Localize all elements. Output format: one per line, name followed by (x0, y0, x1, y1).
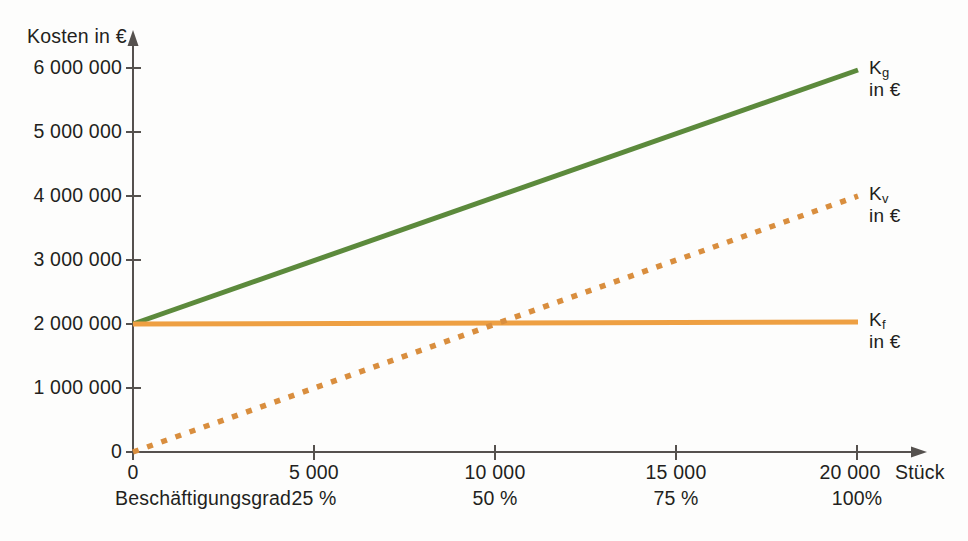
series-label-kf-unit: in € (869, 332, 900, 353)
series-label-kg-unit: in € (869, 80, 900, 101)
series-label-kv: Kv in € (869, 184, 900, 226)
x-secondary-label-100: 100% (807, 488, 907, 509)
y-axis-arrow-icon (128, 30, 139, 46)
series-label-kf-main: K (869, 309, 882, 330)
series-label-kf: Kf in € (869, 310, 900, 352)
y-tick-label-5000000: 5 000 000 (0, 121, 122, 142)
x-tick-label-5000: 5 000 (264, 462, 364, 483)
chart-canvas (0, 0, 968, 541)
series-label-kg-main: K (869, 57, 882, 78)
series-label-kg-subscript: g (882, 65, 889, 80)
series-label-kv-unit: in € (869, 206, 900, 227)
y-tick-label-1000000: 1 000 000 (0, 377, 122, 398)
x-axis-arrow-icon (911, 447, 927, 458)
series-label-kv-subscript: v (882, 191, 889, 206)
x-axis-unit-label: Stück (895, 462, 945, 483)
y-tick-label-4000000: 4 000 000 (0, 185, 122, 206)
x-secondary-label-25: 25 % (264, 488, 364, 509)
cost-function-chart: Kosten in € 6 000 000 5 000 000 4 000 00… (0, 0, 968, 541)
y-tick-label-0: 0 (0, 441, 122, 462)
x-secondary-label-50: 50 % (445, 488, 545, 509)
y-tick-label-2000000: 2 000 000 (0, 313, 122, 334)
y-axis-title: Kosten in € (27, 26, 127, 47)
x-tick-label-0: 0 (83, 462, 183, 483)
series-label-kv-main: K (869, 183, 882, 204)
x-tick-label-20000: 20 000 (800, 462, 900, 483)
y-tick-label-6000000: 6 000 000 (0, 57, 122, 78)
y-tick-label-3000000: 3 000 000 (0, 249, 122, 270)
x-tick-label-10000: 10 000 (445, 462, 545, 483)
series-line-kf (133, 322, 858, 324)
series-line-kg (133, 70, 858, 324)
series-label-kg: Kg in € (869, 58, 900, 100)
x-secondary-label-75: 75 % (626, 488, 726, 509)
x-tick-label-15000: 15 000 (626, 462, 726, 483)
series-label-kf-subscript: f (882, 317, 886, 332)
